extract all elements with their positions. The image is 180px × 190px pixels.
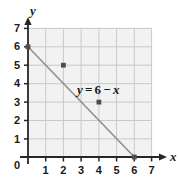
equation-constant: 6 <box>95 82 102 97</box>
y-axis-label: y <box>30 4 36 17</box>
equation-annotation: y=6−x <box>77 83 120 96</box>
x-tick-label-2: 2 <box>60 165 66 176</box>
equation-lhs-variable: y <box>77 82 83 97</box>
x-axis-label: x <box>170 150 177 163</box>
y-tick-label-4: 4 <box>14 78 20 89</box>
data-point-marker <box>26 44 31 49</box>
chart-figure: y x 0 7 6 5 4 3 2 1 1 2 3 4 5 6 7 y=6−x <box>0 0 180 190</box>
y-tick-label-6: 6 <box>14 41 20 52</box>
equation-equals-sign: = <box>85 82 93 97</box>
y-tick-label-7: 7 <box>14 23 20 34</box>
x-tick-label-4: 4 <box>96 165 102 176</box>
x-tick-label-5: 5 <box>114 165 120 176</box>
x-axis-arrowhead <box>159 153 167 160</box>
y-tick-label-1: 1 <box>14 134 20 145</box>
x-tick-label-7: 7 <box>149 165 155 176</box>
y-axis-arrowhead <box>24 17 31 25</box>
data-point-marker <box>61 63 66 68</box>
y-tick-label-3: 3 <box>14 97 20 108</box>
origin-tick-label: 0 <box>14 160 20 171</box>
data-point-marker <box>97 100 102 105</box>
x-tick-label-3: 3 <box>78 165 84 176</box>
x-tick-label-1: 1 <box>43 165 49 176</box>
x-tick-label-6: 6 <box>131 165 137 176</box>
y-tick-label-2: 2 <box>14 115 20 126</box>
equation-minus-sign: − <box>103 82 111 97</box>
y-tick-label-5: 5 <box>14 60 20 71</box>
equation-rhs-variable: x <box>113 82 120 97</box>
data-point-marker <box>132 155 137 160</box>
